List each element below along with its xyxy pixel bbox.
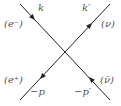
label-minus-p-prime: −p′ — [74, 87, 91, 97]
label-minus-p: −p — [30, 87, 45, 97]
label-electron: (e⁻) — [4, 19, 23, 29]
feynman-diagram: k (e⁻) k′ (ν) (e⁺) −p −p′ (ν̄) — [0, 0, 121, 106]
vertex-lines — [0, 0, 121, 106]
label-k: k — [38, 3, 44, 13]
label-k-prime: k′ — [82, 3, 90, 13]
label-neutrino: (ν) — [101, 19, 115, 29]
label-antineutrino: (ν̄) — [100, 75, 114, 85]
label-positron: (e⁺) — [4, 75, 23, 85]
